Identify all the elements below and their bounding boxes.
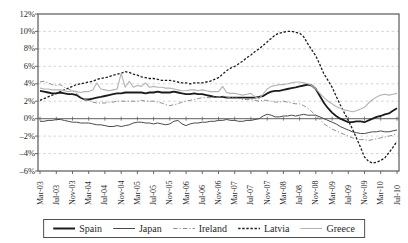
y-axis-label: 8%: [9, 44, 35, 53]
legend-item-japan: Japan: [113, 224, 162, 234]
legend-label: Ireland: [199, 224, 227, 234]
legend-key-greece: [301, 224, 323, 233]
y-axis-label: –6%: [9, 167, 35, 176]
y-axis-label: 2%: [9, 97, 35, 106]
plot-frame: [38, 14, 399, 171]
series-line-greece: [40, 73, 397, 111]
legend-item-latvia: Latvia: [238, 224, 290, 234]
x-axis-label: Mar-05: [134, 181, 142, 205]
x-axis-label: Jul-08: [296, 185, 304, 205]
y-axis-label: 4%: [9, 79, 35, 88]
legend-item-spain: Spain: [53, 224, 102, 234]
x-axis-label: Nov-09: [361, 181, 369, 205]
x-axis-label: Nov-07: [264, 181, 272, 205]
x-axis-label: Mar-07: [231, 181, 239, 205]
y-axis-label: 12%: [9, 10, 35, 19]
y-axis-label: 10%: [9, 27, 35, 36]
legend-key-spain: [53, 224, 75, 233]
x-axis-label: Jul-03: [53, 185, 61, 205]
series-line-ireland: [40, 81, 397, 140]
x-axis-label: Mar-08: [280, 181, 288, 205]
x-axis-label: Jul-10: [394, 185, 402, 205]
inflation-line-chart: 12%10%8%6%4%2%0%–2%–4%–6% Mar-03Jul-03No…: [0, 0, 408, 243]
y-axis-label: –2%: [9, 132, 35, 141]
chart-plot-area: [0, 0, 408, 243]
series-line-spain: [40, 85, 397, 123]
x-axis-label: Jul-05: [150, 185, 158, 205]
x-axis-label: Nov-03: [69, 181, 77, 205]
x-axis-label: Mar-06: [183, 181, 191, 205]
x-axis-label: Jul-07: [247, 185, 255, 205]
x-axis-label: Mar-10: [377, 181, 385, 205]
y-axis-label: –4%: [9, 149, 35, 158]
legend-item-ireland: Ireland: [173, 224, 227, 234]
y-axis-label: 6%: [9, 62, 35, 71]
y-axis-label: 0%: [9, 114, 35, 123]
x-axis-label: Mar-03: [37, 181, 45, 205]
legend-key-ireland: [173, 224, 195, 233]
legend-item-greece: Greece: [301, 224, 355, 234]
legend-label: Japan: [139, 224, 162, 234]
x-axis-label: Jul-06: [199, 185, 207, 205]
legend-label: Spain: [79, 224, 102, 234]
x-axis-label: Nov-04: [118, 181, 126, 205]
x-axis-label: Jul-04: [101, 185, 109, 205]
legend-key-latvia: [238, 224, 260, 233]
x-axis-label: Nov-05: [166, 181, 174, 205]
x-axis-label: Nov-08: [312, 181, 320, 205]
legend-key-japan: [113, 224, 135, 233]
x-axis-label: Mar-04: [85, 181, 93, 205]
x-axis-label: Nov-06: [215, 181, 223, 205]
chart-legend: SpainJapanIrelandLatviaGreece: [43, 219, 365, 238]
x-axis-label: Mar-09: [329, 181, 337, 205]
legend-label: Latvia: [264, 224, 290, 234]
x-axis-label: Jul-09: [345, 185, 353, 205]
legend-label: Greece: [327, 224, 355, 234]
